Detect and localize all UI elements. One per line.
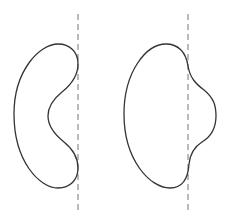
bulge-curve (124, 44, 216, 188)
kidney-curve (14, 44, 78, 188)
figure-left (14, 14, 78, 214)
diagram-canvas (0, 0, 230, 224)
figure-right (124, 14, 216, 214)
